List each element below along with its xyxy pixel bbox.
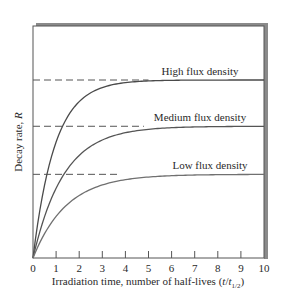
x-tick-label: 5 — [146, 262, 152, 274]
x-tick-label: 9 — [238, 262, 244, 274]
x-tick-label: 10 — [259, 262, 271, 274]
x-tick-label: 6 — [169, 262, 175, 274]
x-axis-tick-labels: 012345678910 — [30, 262, 270, 274]
label-medium-flux: Medium flux density — [154, 111, 247, 123]
x-tick-label: 8 — [215, 262, 221, 274]
label-high-flux: High flux density — [162, 65, 239, 77]
y-axis-label: Decay rate, R — [12, 112, 24, 172]
x-tick-label: 1 — [53, 262, 59, 274]
x-axis-label: Irradiation time, number of half-lives (… — [52, 275, 245, 290]
x-tick-label: 3 — [100, 262, 106, 274]
x-tick-label: 7 — [192, 262, 198, 274]
frame-shadow-right — [264, 23, 268, 259]
label-low-flux: Low flux density — [172, 159, 248, 171]
x-tick-label: 0 — [30, 262, 36, 274]
x-tick-label: 2 — [76, 262, 82, 274]
x-tick-label: 4 — [123, 262, 129, 274]
decay-rate-chart: High flux densityMedium flux densityLow … — [0, 0, 286, 302]
plot-frame — [33, 26, 264, 258]
